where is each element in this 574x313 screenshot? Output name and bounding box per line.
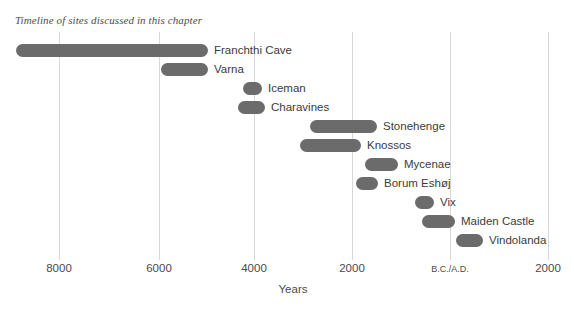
timeline-row: Mycenae <box>0 158 574 171</box>
x-tick-label: 2000 <box>339 262 365 274</box>
bar-label: Franchthi Cave <box>214 43 292 57</box>
plot-area: Franchthi CaveVarnaIcemanCharavinesStone… <box>0 0 574 313</box>
bar-label: Maiden Castle <box>461 214 535 228</box>
x-tick-label: 8000 <box>46 262 72 274</box>
timeline-bar <box>310 120 377 133</box>
bar-label: Vix <box>440 195 456 209</box>
bar-label: Stonehenge <box>383 119 445 133</box>
timeline-bar <box>356 177 378 190</box>
bar-label: Knossos <box>367 138 411 152</box>
bar-label: Vindolanda <box>489 233 546 247</box>
timeline-bar <box>456 234 483 247</box>
timeline-bar <box>16 44 208 57</box>
timeline-bar <box>238 101 265 114</box>
bar-label: Iceman <box>268 81 306 95</box>
x-axis-title: Years <box>279 283 308 295</box>
timeline-bar <box>365 158 398 171</box>
x-tick-label: 2000 <box>535 262 561 274</box>
bar-label: Varna <box>214 62 244 76</box>
timeline-row: Varna <box>0 63 574 76</box>
timeline-bar <box>300 139 361 152</box>
timeline-row: Knossos <box>0 139 574 152</box>
x-tick-label: B.C./A.D. <box>431 264 469 274</box>
x-tick-label: 4000 <box>241 262 267 274</box>
timeline-row: Stonehenge <box>0 120 574 133</box>
bar-label: Mycenae <box>404 157 451 171</box>
timeline-row: Charavines <box>0 101 574 114</box>
timeline-bar <box>243 82 262 95</box>
timeline-row: Iceman <box>0 82 574 95</box>
bar-label: Borum Eshøj <box>384 176 450 190</box>
x-tick-label: 6000 <box>146 262 172 274</box>
timeline-chart: Timeline of sites discussed in this chap… <box>0 0 574 313</box>
timeline-bar <box>161 63 208 76</box>
timeline-row: Vix <box>0 196 574 209</box>
timeline-bar <box>415 196 434 209</box>
timeline-row: Maiden Castle <box>0 215 574 228</box>
timeline-bar <box>422 215 455 228</box>
timeline-row: Franchthi Cave <box>0 44 574 57</box>
timeline-row: Vindolanda <box>0 234 574 247</box>
timeline-row: Borum Eshøj <box>0 177 574 190</box>
bar-label: Charavines <box>271 100 329 114</box>
